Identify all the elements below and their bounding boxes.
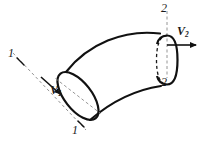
section-label-2-top: 2 xyxy=(161,2,167,14)
outlet-velocity-symbol: V xyxy=(177,24,185,38)
tube-lower-edge xyxy=(90,86,161,120)
diagram-canvas xyxy=(0,0,203,143)
section-label-2-bottom: 2 xyxy=(161,76,167,88)
tube-body xyxy=(66,33,161,120)
outlet-velocity-label: V2 xyxy=(177,25,189,37)
tube-upper-edge xyxy=(66,33,160,72)
inlet-velocity-symbol: V xyxy=(50,83,58,97)
section-label-1-top: 1 xyxy=(8,47,14,59)
section-guide-lines xyxy=(13,11,167,130)
stream-tube-diagram: 1 1 2 2 V1 V2 xyxy=(0,0,203,143)
inlet-velocity-subscript: 1 xyxy=(58,89,62,98)
section-label-1-bottom: 1 xyxy=(72,124,78,136)
outlet-velocity-subscript: 2 xyxy=(185,30,189,39)
inlet-velocity-label: V1 xyxy=(50,84,62,96)
